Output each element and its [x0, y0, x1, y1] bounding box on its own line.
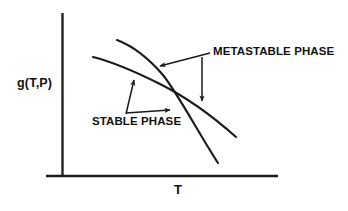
- stable-phase-label: STABLE PHASE: [92, 116, 181, 128]
- metastable-phase-curve: [117, 40, 218, 163]
- metastable-phase-label: METASTABLE PHASE: [213, 46, 334, 58]
- stable-arrow-right: [126, 110, 170, 113]
- y-axis-label: g(T,P): [17, 77, 52, 90]
- axes-group: [46, 13, 278, 177]
- diagram-canvas: [0, 0, 348, 211]
- metastable-leader-arrows: [160, 53, 210, 101]
- x-axis-label: T: [174, 183, 182, 196]
- phase-diagram-figure: g(T,P) T METASTABLE PHASE STABLE PHASE: [0, 0, 348, 211]
- stable-arrow-up: [126, 80, 134, 114]
- curves-group: [93, 40, 236, 163]
